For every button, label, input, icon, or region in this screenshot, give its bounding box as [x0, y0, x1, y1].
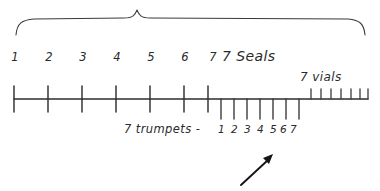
- trumpet-number-2: 2: [229, 123, 240, 135]
- trumpet-number-3: 3: [242, 123, 253, 135]
- seal-number-3: 3: [76, 50, 90, 64]
- trumpet-tick-group: [221, 99, 299, 119]
- pointer-arrow: [241, 154, 273, 185]
- diagram-canvas: 1 2 3 4 5 6 7 7 Seals 7 vials 7 trumpets…: [0, 0, 380, 191]
- seal-number-5: 5: [144, 50, 158, 64]
- trumpet-number-1: 1: [216, 123, 227, 135]
- vial-tick-group: [311, 89, 368, 99]
- seal-number-6: 6: [178, 50, 192, 64]
- diagram-vector-layer: [0, 0, 380, 191]
- trumpet-number-7: 7: [288, 123, 299, 135]
- seal-number-2: 2: [42, 50, 56, 64]
- seals-label: 7 Seals: [222, 48, 275, 64]
- vials-label: 7 vials: [300, 70, 342, 84]
- trumpets-label: 7 trumpets -: [124, 122, 200, 136]
- trumpet-number-4: 4: [255, 123, 266, 135]
- top-brace: [16, 10, 365, 35]
- seal-number-7: 7: [206, 50, 220, 64]
- seal-number-1: 1: [8, 50, 22, 64]
- seal-number-4: 4: [110, 50, 124, 64]
